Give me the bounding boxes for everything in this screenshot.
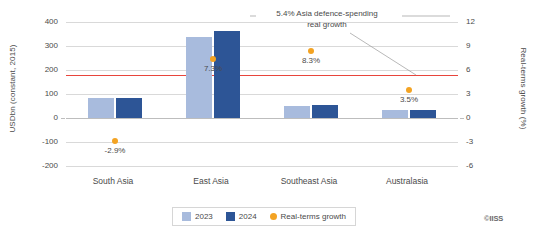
y-axis-right-title: Real-terms growth (%) <box>519 29 528 149</box>
y-left-tick-minus-100: -100 <box>28 138 58 146</box>
x-axis-label-southeast-asia: Southeast Asia <box>254 176 364 186</box>
legend-swatch-2023-icon <box>182 212 191 221</box>
x-axis-label-south-asia: South Asia <box>58 176 168 186</box>
growth-marker-east-asia[interactable] <box>210 56 216 62</box>
bar-southeast-asia-2023[interactable] <box>284 106 310 118</box>
bar-south-asia-2023[interactable] <box>88 98 114 118</box>
credit-text: ©IISS <box>484 214 503 223</box>
y-right-tick-9: 9 <box>466 42 496 50</box>
growth-label-australasia: 3.5% <box>389 95 429 104</box>
bar-group-east-asia: 7.3% <box>164 22 262 166</box>
plot-area: 400 300 200 100 0 -100 -200 12 9 6 3 0 -… <box>66 22 458 166</box>
y-right-tick-12: 12 <box>466 18 496 26</box>
x-axis-label-east-asia: East Asia <box>156 176 266 186</box>
y-left-tick-mark-zero <box>61 118 65 119</box>
legend-item-2024[interactable]: 2024 <box>226 212 257 221</box>
growth-marker-australasia[interactable] <box>406 87 412 93</box>
legend-dot-growth-icon <box>270 213 277 220</box>
y-right-tick-mark-zero <box>460 118 464 119</box>
annotation-line-2: real growth <box>252 20 402 31</box>
x-axis-label-australasia: Australasia <box>352 176 462 186</box>
bar-australasia-2024[interactable] <box>410 110 436 118</box>
bar-east-asia-2024[interactable] <box>214 31 240 118</box>
bar-group-australasia: 3.5% <box>360 22 458 166</box>
legend-label-real-terms-growth: Real-terms growth <box>281 212 346 221</box>
y-left-tick-200: 200 <box>28 66 58 74</box>
y-left-tick-300: 300 <box>28 42 58 50</box>
y-right-tick-6: 6 <box>466 66 496 74</box>
gridline-minus-200 <box>66 166 458 167</box>
legend-swatch-2024-icon <box>226 212 235 221</box>
bar-australasia-2023[interactable] <box>382 110 408 118</box>
bar-group-southeast-asia: 8.3% <box>262 22 360 166</box>
y-left-tick-100: 100 <box>28 90 58 98</box>
bar-east-asia-2023[interactable] <box>186 37 212 118</box>
legend-item-2023[interactable]: 2023 <box>182 212 213 221</box>
bar-south-asia-2024[interactable] <box>116 98 142 118</box>
y-right-tick-minus-3: -3 <box>466 138 496 146</box>
chart-figure: USDbn (constant, 2015) Real-terms growth… <box>0 0 533 238</box>
y-axis-left-title: USDbn (constant, 2015) <box>8 29 17 149</box>
legend-label-2024: 2024 <box>239 212 257 221</box>
growth-label-southeast-asia: 8.3% <box>291 56 331 65</box>
bar-southeast-asia-2024[interactable] <box>312 105 338 118</box>
annotation-line-1: 5.4% Asia defence-spending <box>252 9 402 20</box>
legend-item-real-terms-growth[interactable]: Real-terms growth <box>270 212 346 221</box>
y-right-tick-0: 0 <box>466 114 496 122</box>
growth-label-south-asia: -2.9% <box>95 146 135 155</box>
reference-line-annotation: 5.4% Asia defence-spending real growth <box>252 9 402 31</box>
y-right-tick-3: 3 <box>466 90 496 98</box>
growth-marker-south-asia[interactable] <box>112 138 118 144</box>
bar-group-south-asia: -2.9% <box>66 22 164 166</box>
chart-legend: 2023 2024 Real-terms growth <box>172 207 356 226</box>
growth-marker-southeast-asia[interactable] <box>308 48 314 54</box>
y-left-tick-400: 400 <box>28 18 58 26</box>
legend-label-2023: 2023 <box>195 212 213 221</box>
y-left-tick-minus-200: -200 <box>28 162 58 170</box>
y-left-tick-0: 0 <box>28 114 58 122</box>
growth-label-east-asia: 7.3% <box>193 64 233 73</box>
y-right-tick-minus-6: -6 <box>466 162 496 170</box>
